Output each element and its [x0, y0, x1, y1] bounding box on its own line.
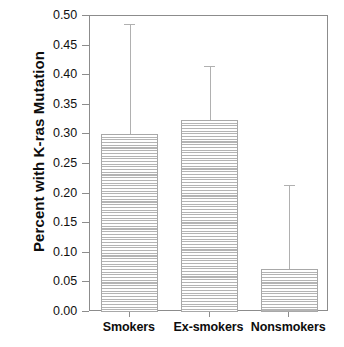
y-tick-label: 0.40: [53, 67, 77, 81]
y-tick-mark: [82, 74, 89, 75]
error-bar-line-nonsmokers: [289, 185, 290, 270]
bar-nonsmokers: [261, 269, 318, 312]
x-tick-label: Nonsmokers: [251, 320, 326, 334]
y-tick-mark: [82, 311, 89, 312]
y-tick-mark: [82, 252, 89, 253]
y-tick-label: 0.30: [53, 126, 77, 140]
y-tick-label: 0.10: [53, 245, 77, 259]
y-tick-mark: [82, 222, 89, 223]
bar-chart-figure: Percent with K-ras Mutation 0.000.050.10…: [0, 0, 344, 347]
bar-smokers: [101, 134, 158, 312]
y-tick-mark: [82, 104, 89, 105]
y-tick-mark: [82, 15, 89, 16]
y-tick-label: 0.20: [53, 186, 77, 200]
y-tick-label: 0.00: [53, 304, 77, 318]
error-bar-line-ex-smokers: [210, 66, 211, 119]
y-tick-label: 0.15: [53, 215, 77, 229]
error-bar-cap-smokers: [124, 24, 135, 25]
x-tick-label: Smokers: [103, 320, 155, 334]
y-tick-label: 0.35: [53, 97, 77, 111]
y-tick-mark: [82, 45, 89, 46]
y-tick-mark: [82, 193, 89, 194]
y-tick-label: 0.50: [53, 8, 77, 22]
y-tick-mark: [82, 163, 89, 164]
y-tick-mark: [82, 281, 89, 282]
y-tick-label: 0.45: [53, 38, 77, 52]
y-tick-label: 0.05: [53, 274, 77, 288]
error-bar-cap-ex-smokers: [204, 66, 215, 67]
y-tick-mark: [82, 133, 89, 134]
x-tick-label: Ex-smokers: [174, 320, 244, 334]
error-bar-cap-nonsmokers: [284, 185, 295, 186]
plot-area: [89, 15, 328, 311]
y-axis-title: Percent with K-ras Mutation: [30, 7, 47, 297]
error-bar-line-smokers: [130, 24, 131, 135]
y-tick-label: 0.25: [53, 156, 77, 170]
bar-ex-smokers: [181, 120, 238, 312]
